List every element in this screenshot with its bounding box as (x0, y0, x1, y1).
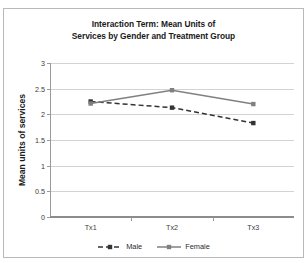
y-axis-tick (47, 217, 50, 218)
x-axis-tick (213, 217, 214, 221)
y-axis-title: Mean units of services (16, 63, 28, 217)
y-axis-tick-label: 1 (41, 161, 45, 170)
legend-label-male: Male (126, 242, 142, 251)
series-line-male (91, 102, 254, 124)
data-point-male-tx2 (170, 105, 174, 109)
x-axis-tick-label: Tx1 (85, 223, 97, 232)
chart-legend: MaleFemale (4, 242, 303, 251)
chart-title-line-2: Services by Gender and Treatment Group (4, 31, 303, 43)
legend-marker-female-icon (156, 243, 182, 251)
series-lines (50, 63, 294, 217)
legend-marker-male-icon (97, 243, 123, 251)
y-axis-tick-label: 2.5 (35, 84, 45, 93)
y-axis-tick-label: 2 (41, 110, 45, 119)
data-point-male-tx3 (251, 121, 255, 125)
legend-item-male[interactable]: Male (97, 242, 142, 251)
chart-title: Interaction Term: Mean Units of Services… (4, 19, 303, 42)
x-axis-tick (131, 217, 132, 221)
y-axis-tick-label: 0.5 (35, 187, 45, 196)
data-point-female-tx1 (88, 101, 92, 105)
plot-area: 00.511.522.53 Tx1Tx2Tx3 (50, 63, 294, 217)
data-point-female-tx2 (170, 88, 174, 92)
chart-container: Interaction Term: Mean Units of Services… (3, 8, 304, 258)
y-axis-title-label: Mean units of services (17, 94, 27, 186)
y-axis-tick-label: 3 (41, 59, 45, 68)
x-axis-tick-label: Tx3 (247, 223, 259, 232)
data-point-female-tx3 (251, 102, 255, 106)
y-axis-tick-label: 0 (41, 213, 45, 222)
y-axis-tick-label: 1.5 (35, 136, 45, 145)
legend-label-female: Female (185, 242, 210, 251)
legend-item-female[interactable]: Female (156, 242, 210, 251)
chart-title-line-1: Interaction Term: Mean Units of (4, 19, 303, 31)
plot-background: 00.511.522.53 (50, 63, 294, 217)
x-axis-tick-label: Tx2 (166, 223, 178, 232)
